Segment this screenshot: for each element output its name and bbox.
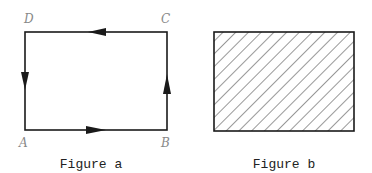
figure-a-caption: Figure a [60,157,123,172]
figure-b: Figure b [214,32,354,172]
arrow-down-icon [21,72,29,90]
diagram-canvas: D C A B Figure a Figure b [0,0,372,173]
loop-rectangle [25,32,167,130]
vertex-label-c: C [161,12,170,26]
arrow-right-icon [86,126,106,134]
vertex-label-d: D [23,12,34,26]
vertex-label-a: A [18,136,28,150]
hatched-rectangle [214,32,354,131]
figure-b-caption: Figure b [253,157,315,172]
arrow-left-icon [88,28,106,36]
arrow-up-icon [163,74,171,94]
figure-a: D C A B Figure a [18,12,171,172]
vertex-label-b: B [160,136,170,150]
